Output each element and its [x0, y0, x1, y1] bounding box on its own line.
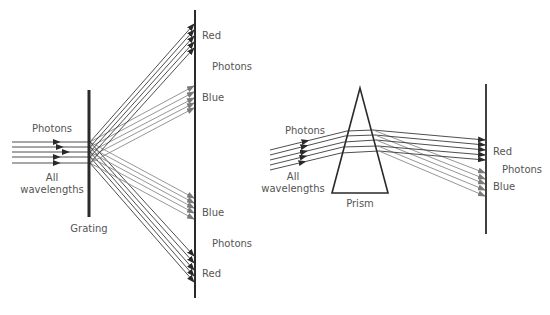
grating-incoming-rays [12, 142, 89, 163]
prism-red-ray [375, 135, 485, 145]
prism-all-label: All [287, 171, 299, 182]
blue-diffracted-ray [90, 108, 194, 163]
grating-lower-blue-label: Blue [202, 207, 224, 218]
grating-lower-red-label: Red [202, 268, 221, 279]
prism-red-ray [378, 146, 485, 155]
red-diffracted-ray [90, 48, 194, 163]
prism-dispersed-rays [373, 130, 485, 196]
prism-incoming-ray [270, 162, 306, 171]
prism-incoming-ray-tail [307, 142, 344, 151]
grating-upper-blue-label: Blue [202, 92, 224, 103]
grating-incoming-label: Photons [32, 123, 72, 134]
grating-upper-red-label: Red [202, 30, 221, 41]
prism-incoming-rays [270, 131, 347, 170]
prism-diagram: Photons All wavelengths Prism Red Photon… [261, 84, 542, 234]
prism-incoming-ray-tail [307, 147, 344, 156]
prism-internal-ray [347, 130, 373, 131]
red-diffracted-ray [90, 24, 194, 142]
grating-upper-photons-label: Photons [212, 61, 252, 72]
prism-wavelengths-label: wavelengths [261, 183, 324, 194]
grating-lower-photons-label: Photons [212, 238, 252, 249]
grating-diagram: Photons All wavelengths Grating Red Phot… [12, 10, 252, 298]
prism-incoming-ray-tail [308, 136, 346, 146]
blue-diffracted-ray [90, 92, 194, 147]
diffraction-diagram: Photons All wavelengths Grating Red Phot… [0, 0, 550, 315]
prism-red-ray [376, 140, 485, 150]
prism-internal-ray [343, 146, 378, 147]
red-diffracted-ray [90, 142, 194, 256]
prism-incoming-ray [270, 156, 307, 165]
prism-internal-ray [344, 140, 376, 142]
prism-incoming-ray [270, 151, 307, 160]
prism-blue-label: Blue [493, 181, 515, 192]
prism-blue-ray [376, 140, 485, 184]
grating-diffracted-rays [90, 24, 194, 282]
prism-photons-label: Photons [502, 164, 542, 175]
red-diffracted-ray [90, 42, 194, 157]
prism-internal-rays [341, 130, 379, 153]
prism-incoming-ray-tail [306, 153, 342, 162]
prism-incoming-ray [270, 141, 309, 151]
prism-red-ray [373, 130, 485, 140]
prism-incoming-ray [270, 146, 308, 156]
prism-internal-ray [345, 135, 375, 136]
prism-internal-ray [341, 151, 379, 153]
prism-red-label: Red [493, 146, 512, 157]
prism-incoming-label: Photons [285, 125, 325, 136]
red-diffracted-ray [90, 30, 194, 147]
grating-all-label: All [46, 172, 58, 183]
grating-wavelengths-label: wavelengths [20, 184, 83, 195]
prism-label: Prism [346, 198, 374, 209]
grating-label: Grating [70, 223, 107, 234]
